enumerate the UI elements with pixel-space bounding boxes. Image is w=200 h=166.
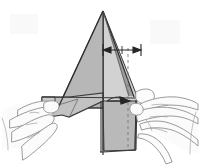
origami-diagram-canvas: Origami paper-fold step: two hands shapi…: [0, 0, 200, 166]
origami-diagram-figure: Origami paper-fold step: two hands shapi…: [0, 0, 200, 166]
right-hand-fingertip-press: [130, 103, 143, 115]
left-hand-thumb: [44, 101, 59, 113]
